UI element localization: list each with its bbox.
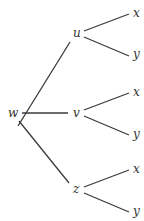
- node-u: u: [73, 26, 81, 40]
- leaf-u-y: y: [132, 47, 140, 61]
- leaf-v-y: y: [132, 127, 140, 141]
- node-w: w: [8, 106, 19, 120]
- edge-u-x: [84, 14, 129, 31]
- node-labels: w u v z x y x y x y: [8, 6, 140, 218]
- node-v: v: [73, 106, 80, 120]
- edge-w-z: [19, 121, 69, 183]
- edge-z-x: [84, 170, 129, 187]
- node-z: z: [72, 182, 80, 196]
- leaf-z-y: y: [132, 204, 140, 218]
- tree-diagram: w u v z x y x y x y: [0, 0, 144, 221]
- leaf-u-x: x: [133, 6, 140, 20]
- edge-v-x: [84, 93, 129, 110]
- edge-v-y: [84, 116, 129, 135]
- edge-z-y: [84, 193, 129, 212]
- leaf-z-x: x: [133, 162, 140, 176]
- leaf-v-x: x: [133, 85, 140, 99]
- edge-u-y: [84, 37, 129, 56]
